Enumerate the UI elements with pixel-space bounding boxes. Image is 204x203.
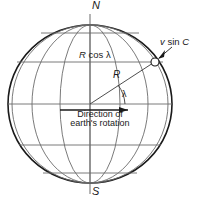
latitude-radius-symbol: R [79,49,86,60]
south-pole-label: S [92,186,99,198]
rotation-direction-label: Direction of earth's rotation [50,110,150,129]
rotation-label-line2: earth's rotation [50,119,150,128]
latitude-radius-label: R cos λ [79,50,111,60]
velocity-leader-arrowhead [158,50,165,59]
surface-point-marker [151,58,159,66]
radius-label: R [113,70,120,81]
velocity-course-symbol: C [182,36,189,47]
latitude-radius-rest: cos λ [86,49,111,60]
north-pole-label: N [92,0,100,12]
velocity-mid-text: sin [165,36,182,47]
velocity-component-label: v sin C [160,37,189,47]
latitude-angle-label: λ [122,90,127,99]
earth-rotation-diagram: N S R cos λ R λ v sin C Direction of ear… [0,0,204,203]
sphere-drawing [0,0,204,203]
